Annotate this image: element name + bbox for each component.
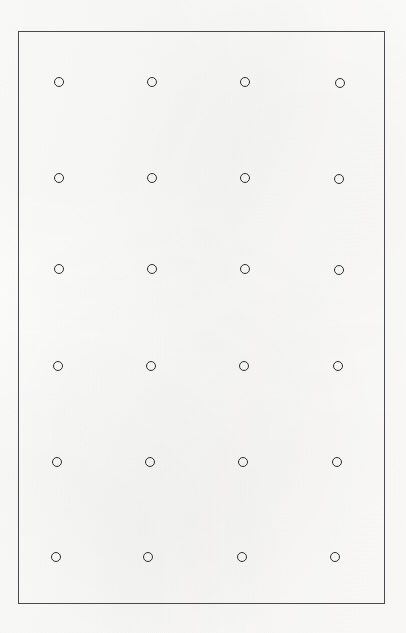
mark-r6c4[interactable]: [330, 552, 340, 562]
mark-r3c3[interactable]: [240, 264, 250, 274]
mark-r1c1[interactable]: [54, 77, 64, 87]
mark-r2c1[interactable]: [54, 173, 64, 183]
mark-r5c2[interactable]: [145, 457, 155, 467]
mark-r5c3[interactable]: [238, 457, 248, 467]
mark-r4c4[interactable]: [333, 361, 343, 371]
mark-r2c4[interactable]: [334, 174, 344, 184]
mark-r3c2[interactable]: [147, 264, 157, 274]
page-canvas: [0, 0, 406, 633]
mark-r3c4[interactable]: [334, 265, 344, 275]
mark-r6c3[interactable]: [237, 552, 247, 562]
mark-r2c2[interactable]: [147, 173, 157, 183]
mark-r6c2[interactable]: [143, 552, 153, 562]
mark-r6c1[interactable]: [51, 552, 61, 562]
mark-r1c4[interactable]: [335, 78, 345, 88]
mark-r5c4[interactable]: [332, 457, 342, 467]
mark-r1c2[interactable]: [147, 77, 157, 87]
mark-r1c3[interactable]: [240, 77, 250, 87]
mark-r4c1[interactable]: [53, 361, 63, 371]
mark-r3c1[interactable]: [54, 264, 64, 274]
circle-grid: [0, 0, 406, 633]
mark-r4c3[interactable]: [239, 361, 249, 371]
mark-r2c3[interactable]: [240, 173, 250, 183]
mark-r4c2[interactable]: [146, 361, 156, 371]
mark-r5c1[interactable]: [52, 457, 62, 467]
